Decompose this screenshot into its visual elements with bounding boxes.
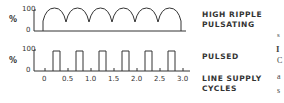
- lower-chart: [34, 50, 190, 71]
- xlabel-line1: LINE SUPPLY: [202, 74, 262, 84]
- lower-label: PULSED: [202, 52, 239, 62]
- upper-label-line1: HIGH RIPPLE: [202, 10, 262, 20]
- text-fragment: s: [277, 86, 280, 95]
- text-fragment: C: [277, 56, 282, 65]
- text-fragment: I: [276, 44, 280, 54]
- upper-y-axis: [34, 10, 36, 31]
- xtick-4: 2.0: [131, 75, 142, 83]
- lower-y-unit: %: [9, 56, 17, 65]
- text-fragment: a: [277, 72, 281, 81]
- xtick-2: 1.0: [85, 75, 96, 83]
- xlabel-line2: CYCLES: [202, 84, 237, 94]
- xtick-6: 3.0: [177, 75, 188, 83]
- lower-y-max: 100: [22, 45, 35, 53]
- upper-chart: [34, 8, 186, 31]
- upper-y-max: 100: [22, 5, 35, 13]
- lower-y-axis: [34, 50, 36, 71]
- xtick-1: 0.5: [62, 75, 73, 83]
- upper-y-unit: %: [9, 15, 17, 24]
- upper-y-min: 0: [26, 26, 30, 34]
- xtick-0: 0: [42, 75, 46, 83]
- upper-label-line2: PULSATING: [202, 20, 255, 30]
- ripple-waveform: [43, 8, 181, 22]
- xtick-3: 1.5: [108, 75, 119, 83]
- text-fragment: s: [277, 31, 280, 39]
- lower-y-min: 0: [26, 66, 30, 74]
- xtick-5: 2.5: [154, 75, 165, 83]
